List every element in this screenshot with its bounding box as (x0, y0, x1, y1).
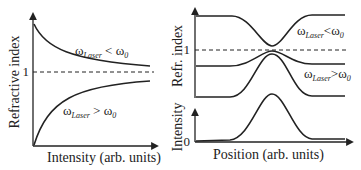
figure: 1 Refractive index Intensity (arb. units… (0, 0, 361, 170)
middle-curve (196, 51, 345, 66)
left-panel: 1 Refractive index Intensity (arb. units… (7, 16, 161, 166)
bottom-y-axis-label: Intensity (170, 103, 185, 152)
upper-curve-label: ωLaser<ω0 (297, 23, 344, 40)
y-axis-label: Refractive index (7, 36, 22, 129)
upper-curve-label: ωLaser < ω0 (75, 43, 128, 60)
x-axis-label: Intensity (arb. units) (47, 150, 161, 166)
right-panel: 1 0 Refr. index Intensity Position (arb.… (170, 11, 351, 163)
intensity-curve (196, 94, 345, 141)
lower-curve-label: ωLaser > ω0 (63, 103, 116, 120)
x-axis-label: Position (arb. units) (213, 147, 324, 163)
tick-1: 1 (23, 64, 30, 79)
lower-curve-label: ωLaser>ω0 (304, 66, 351, 83)
top-y-axis-label: Refr. index (170, 25, 185, 87)
